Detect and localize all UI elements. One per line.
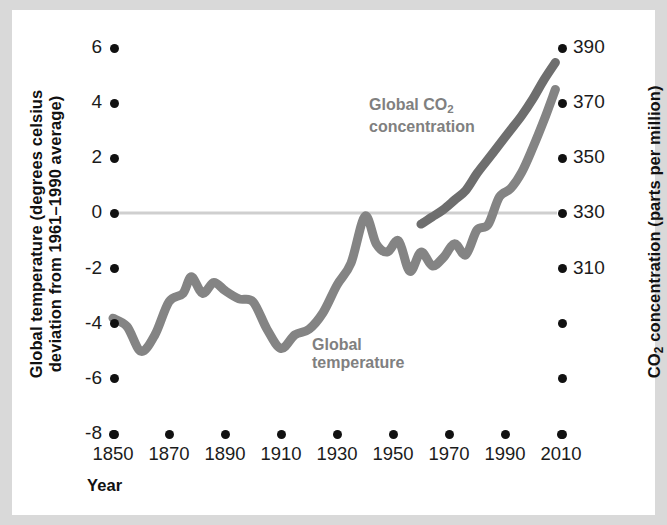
- x-axis-tick-label: 1850: [84, 443, 142, 465]
- x-axis-tick-label: 1950: [364, 443, 422, 465]
- series-label-temperature-line1: Global: [312, 336, 362, 353]
- y-axis-left-title-line1: Global temperature (degrees celsius: [27, 90, 45, 379]
- y-axis-right-title-sub: 2: [652, 346, 666, 353]
- y-axis-left-tick-dot: [110, 209, 119, 218]
- series-label-temperature-line2: temperature: [312, 354, 404, 371]
- y-axis-right-tick-dot: [558, 209, 567, 218]
- x-axis-tick-label: 1890: [196, 443, 254, 465]
- y-axis-right-tick-dot: [558, 264, 567, 273]
- y-axis-left-tick-label: 6: [60, 36, 102, 58]
- x-axis-tick-dot: [221, 430, 230, 439]
- y-axis-right-tick-label: 390: [573, 36, 623, 58]
- series-label-co2-line2: concentration: [369, 118, 475, 135]
- y-axis-right-title-post: concentration (parts per million): [645, 85, 663, 346]
- chart-canvas: [12, 10, 655, 515]
- y-axis-right-tick-label: 310: [573, 257, 623, 279]
- x-axis-tick-dot: [445, 430, 454, 439]
- y-axis-right-tick-label: 330: [573, 201, 623, 223]
- series-label-co2: Global CO2 concentration: [369, 96, 475, 136]
- x-axis-title: Year: [87, 476, 122, 495]
- x-axis-tick-dot: [389, 430, 398, 439]
- x-axis-tick-dot: [165, 430, 174, 439]
- y-axis-left-tick-label: 2: [60, 146, 102, 168]
- y-axis-left-tick-label: 4: [60, 91, 102, 113]
- x-axis-tick-label: 1870: [140, 443, 198, 465]
- global-temperature-line: [113, 89, 555, 351]
- chart-figure: Global CO2 concentration Global temperat…: [0, 0, 667, 525]
- y-axis-left-tick-label: -4: [60, 312, 102, 334]
- y-axis-left-tick-dot: [110, 154, 119, 163]
- x-axis-tick-label: 1990: [476, 443, 534, 465]
- x-axis-tick-label: 1910: [252, 443, 310, 465]
- y-axis-left-tick-dot: [110, 44, 119, 53]
- series-label-co2-line1: Global CO2: [369, 96, 454, 113]
- x-axis-tick-dot: [557, 430, 566, 439]
- x-axis-tick-label: 1970: [420, 443, 478, 465]
- y-axis-left-tick-dot: [110, 99, 119, 108]
- y-axis-right-title: CO2 concentration (parts per million): [645, 32, 667, 432]
- y-axis-right-tick-dot: [558, 154, 567, 163]
- chart-plate: Global CO2 concentration Global temperat…: [12, 10, 655, 515]
- series-label-temperature: Global temperature: [312, 336, 404, 372]
- x-axis-tick-label: 2010: [532, 443, 590, 465]
- y-axis-left-tick-label: -8: [60, 422, 102, 444]
- x-axis-tick-dot: [333, 430, 342, 439]
- y-axis-right-title-pre: CO: [645, 353, 663, 378]
- y-axis-left-tick-label: -6: [60, 367, 102, 389]
- y-axis-right-tick-dot: [558, 99, 567, 108]
- y-axis-left-tick-label: -2: [60, 257, 102, 279]
- x-axis-tick-dot: [501, 430, 510, 439]
- y-axis-left-tick-dot: [110, 264, 119, 273]
- x-axis-tick-label: 1930: [308, 443, 366, 465]
- x-axis-tick-dot: [109, 430, 118, 439]
- y-axis-left-tick-label: 0: [60, 201, 102, 223]
- y-axis-right-tick-label: 350: [573, 146, 623, 168]
- x-axis-tick-dot: [277, 430, 286, 439]
- y-axis-right-tick-label: 370: [573, 91, 623, 113]
- y-axis-right-tick-dot: [558, 44, 567, 53]
